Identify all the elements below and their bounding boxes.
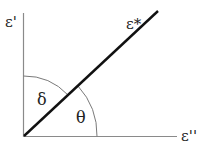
dielectric-angle-diagram: ε' ε* ε'' δ θ	[0, 0, 205, 149]
theta-label: θ	[76, 108, 86, 127]
delta-label: δ	[37, 90, 47, 109]
vertical-axis-label: ε'	[5, 13, 17, 31]
vector-label: ε*	[126, 15, 142, 33]
horizontal-axis-label: ε''	[181, 127, 197, 145]
